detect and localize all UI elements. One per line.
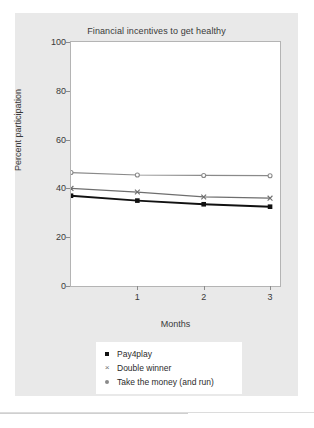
legend-item-label: Take the money (and run) — [117, 377, 214, 387]
square-marker-icon — [102, 352, 112, 356]
data-point-marker — [71, 193, 73, 198]
y-tick-mark — [66, 91, 70, 92]
x-axis-label: Months — [70, 319, 281, 329]
series-line — [71, 173, 270, 176]
chart-figure: Financial incentives to get healthy Perc… — [15, 13, 298, 396]
x-tick-mark — [270, 286, 271, 290]
y-tick-label: 20 — [40, 232, 66, 242]
legend-item-label: Double winner — [117, 363, 171, 373]
circle-marker-icon — [102, 380, 112, 384]
y-tick-mark — [66, 188, 70, 189]
chart-legend: Pay4play × Double winner Take the money … — [96, 342, 242, 394]
y-tick-mark — [66, 286, 70, 287]
data-point-marker — [135, 198, 140, 203]
y-tick-label: 60 — [40, 135, 66, 145]
data-point-marker — [202, 173, 206, 177]
x-tick-mark — [204, 286, 205, 290]
y-tick-label: 0 — [40, 281, 66, 291]
legend-item-pay4play: Pay4play — [102, 347, 236, 361]
legend-item-double-winner: × Double winner — [102, 361, 236, 375]
chart-title: Financial incentives to get healthy — [15, 26, 298, 36]
legend-item-label: Pay4play — [117, 349, 152, 359]
y-tick-label: 40 — [40, 183, 66, 193]
series-layer — [71, 42, 280, 286]
data-point-marker — [268, 174, 272, 178]
data-point-marker — [71, 171, 73, 175]
y-axis-label: Percent participation — [13, 89, 23, 171]
x-tick-label: 1 — [127, 292, 147, 302]
y-tick-mark — [66, 237, 70, 238]
legend-item-take-the-money: Take the money (and run) — [102, 375, 236, 389]
x-tick-label: 3 — [260, 292, 280, 302]
x-tick-label: 2 — [194, 292, 214, 302]
y-tick-label: 100 — [40, 37, 66, 47]
y-tick-mark — [66, 42, 70, 43]
plot-area — [70, 41, 281, 287]
x-tick-mark — [137, 286, 138, 290]
data-point-marker — [201, 202, 206, 207]
page-divider-secondary — [0, 413, 188, 414]
series-line — [71, 188, 270, 198]
y-tick-mark — [66, 140, 70, 141]
data-point-marker — [268, 204, 273, 209]
data-point-marker — [135, 173, 139, 177]
y-tick-label: 80 — [40, 86, 66, 96]
x-marker-icon: × — [102, 364, 112, 372]
